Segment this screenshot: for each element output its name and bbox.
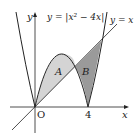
region-a-label: A xyxy=(54,66,62,77)
y-axis-arrow-icon xyxy=(33,12,37,17)
x-axis-label: x xyxy=(122,109,128,120)
region-a xyxy=(35,54,75,107)
tick-4-label: 4 xyxy=(85,109,91,120)
origin-label: O xyxy=(37,109,45,120)
curve-label: y = |x² − 4x| xyxy=(46,12,104,23)
graph-figure: y y = |x² − 4x| y = x O 4 x A B xyxy=(0,0,140,139)
region-b-label: B xyxy=(81,66,89,77)
curve-left-branch xyxy=(16,12,35,107)
line-label: y = x xyxy=(109,15,133,25)
y-axis-label: y xyxy=(26,11,33,22)
